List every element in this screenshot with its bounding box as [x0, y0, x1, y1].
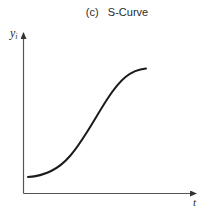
s-curve-line [28, 69, 146, 178]
s-curve-plot [0, 0, 212, 216]
